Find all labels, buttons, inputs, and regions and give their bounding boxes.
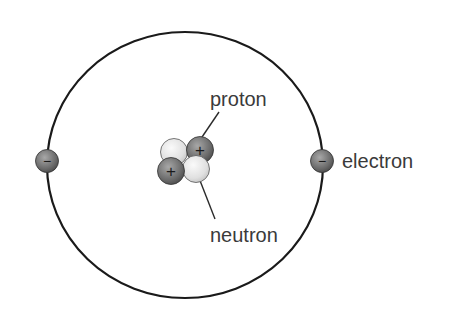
electron-right: −	[311, 150, 334, 173]
plus-icon: +	[166, 162, 176, 181]
minus-icon: −	[318, 153, 326, 169]
atom-diagram: + + − − proton neutron electron	[0, 0, 449, 310]
proton: +	[158, 158, 185, 185]
neutron-leader-line	[199, 178, 215, 219]
nucleus: + +	[158, 137, 214, 185]
proton-label: proton	[210, 88, 267, 110]
electron-label: electron	[342, 150, 413, 172]
proton-leader-line	[200, 112, 219, 140]
neutron-label: neutron	[210, 224, 278, 246]
electron-left: −	[36, 150, 59, 173]
neutron	[183, 156, 210, 183]
minus-icon: −	[43, 153, 51, 169]
